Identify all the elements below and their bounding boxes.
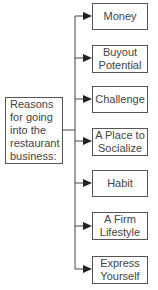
node-challenge: Challenge	[92, 86, 148, 113]
node-express-yourself: Express Yourself	[92, 256, 148, 284]
node-label: Habit	[107, 177, 133, 190]
root-node: Reasons for going into the restaurant bu…	[5, 97, 63, 164]
node-label: Express Yourself	[93, 257, 147, 283]
node-a-firm-lifestyle: A Firm Lifestyle	[92, 212, 148, 240]
node-label: A Place to Socialize	[93, 129, 147, 155]
node-a-place-to-socialize: A Place to Socialize	[92, 128, 148, 156]
node-label: A Firm Lifestyle	[93, 213, 147, 239]
node-habit: Habit	[92, 170, 148, 197]
node-buyout-potential: Buyout Potential	[92, 45, 148, 73]
node-label: Buyout Potential	[93, 46, 147, 72]
node-label: Money	[103, 10, 136, 23]
root-label: Reasons for going into the restaurant bu…	[10, 98, 62, 163]
node-money: Money	[92, 3, 148, 30]
node-label: Challenge	[95, 93, 145, 106]
